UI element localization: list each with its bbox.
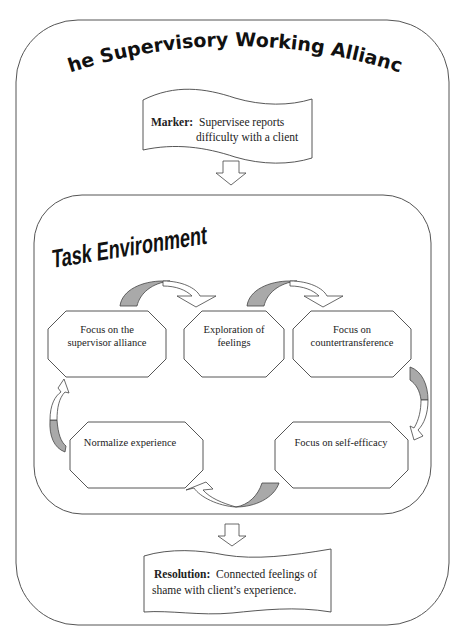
node-focus-self-efficacy: Focus on self-efficacy bbox=[275, 422, 408, 488]
curved-arrow-icon bbox=[120, 281, 216, 307]
marker-label: Marker: bbox=[151, 116, 193, 128]
task-environment-title: Task Environment bbox=[52, 220, 207, 274]
svg-text:Exploration of: Exploration of bbox=[204, 324, 265, 335]
resolution-label: Resolution: bbox=[154, 568, 210, 580]
marker-line1: Supervisee reports bbox=[199, 116, 285, 129]
svg-text:supervisor alliance: supervisor alliance bbox=[67, 337, 146, 348]
resolution-line1: Connected feelings of bbox=[216, 568, 317, 581]
svg-text:feelings: feelings bbox=[217, 337, 250, 348]
svg-text:countertransference: countertransference bbox=[311, 337, 394, 348]
curved-arrow-icon bbox=[50, 379, 69, 452]
marker-banner: Marker: Supervisee reports difficulty wi… bbox=[143, 89, 312, 163]
resolution-banner: Resolution: Connected feelings of shame … bbox=[144, 549, 331, 614]
svg-text:Marker: Supervisee repor: Marker: Supervisee reports bbox=[151, 116, 285, 129]
svg-text:Focus on: Focus on bbox=[333, 324, 372, 335]
node-focus-supervisor-alliance: Focus on the supervisor alliance bbox=[48, 311, 166, 377]
down-arrow-icon bbox=[218, 524, 246, 546]
curved-arrow-icon bbox=[247, 281, 343, 307]
svg-text:Focus on self-efficacy: Focus on self-efficacy bbox=[294, 437, 388, 448]
diagram-title: The Supervisory Working Alliance bbox=[0, 0, 405, 76]
node-focus-countertransference: Focus on countertransference bbox=[293, 311, 411, 377]
curved-arrow-icon bbox=[410, 367, 428, 440]
down-arrow-icon bbox=[216, 161, 246, 185]
marker-line2: difficulty with a client bbox=[196, 131, 299, 144]
node-exploration-of-feelings: Exploration of feelings bbox=[184, 311, 284, 377]
node-normalize-experience: Normalize experience bbox=[70, 422, 203, 488]
svg-text:Resolution: Connected fe: Resolution: Connected feelings of bbox=[154, 568, 317, 581]
curved-arrow-icon bbox=[186, 482, 279, 507]
diagram-canvas: The Supervisory Working Alliance Marker:… bbox=[0, 0, 464, 638]
svg-text:Normalize experience: Normalize experience bbox=[84, 437, 177, 448]
svg-text:Focus on the: Focus on the bbox=[80, 324, 134, 335]
resolution-line2: shame with client’s experience. bbox=[152, 584, 296, 597]
